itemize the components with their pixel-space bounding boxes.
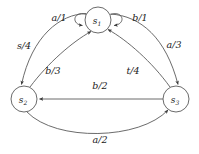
- fsm-canvas: s1 s2 s3 a/1 b/1 s/4 b/3 a/3 t/4 b/2 a/2: [0, 0, 199, 154]
- edge-label-a3: a/3: [167, 39, 182, 50]
- edge-label-a1: a/1: [52, 12, 67, 23]
- state-subscript-s3: 3: [175, 99, 179, 106]
- edge-s2-s3-a2: [27, 110, 168, 134]
- state-node-s1[interactable]: s1: [85, 7, 111, 33]
- edge-label-s4: s/4: [17, 40, 31, 51]
- state-node-s2[interactable]: s2: [11, 86, 37, 112]
- state-diagram: s1 s2 s3 a/1 b/1 s/4 b/3 a/3 t/4 b/2 a/2: [0, 0, 199, 154]
- state-subscript-s2: 2: [22, 99, 27, 106]
- edge-label-b1: b/1: [132, 12, 147, 23]
- edge-label-a2: a/2: [93, 134, 108, 145]
- state-node-s3[interactable]: s3: [163, 86, 189, 112]
- edge-label-t4: t/4: [126, 65, 139, 76]
- edge-label-b2: b/2: [92, 80, 107, 91]
- edge-s1-self-b1: [111, 14, 123, 26]
- state-subscript-s1: 1: [97, 20, 101, 27]
- edge-s3-s1-t4: [108, 30, 170, 88]
- edge-label-b3: b/3: [45, 65, 60, 76]
- edge-s2-s1-b3: [30, 32, 91, 88]
